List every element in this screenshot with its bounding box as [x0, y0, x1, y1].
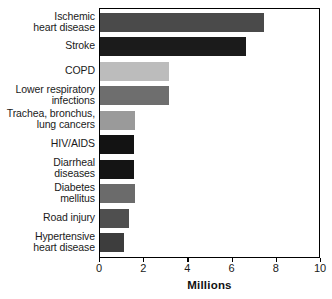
category-label-line: Diabetes [0, 182, 95, 193]
bar [100, 135, 134, 154]
category-label-line: lung cancers [0, 119, 95, 130]
category-label: Diarrhealdiseases [0, 157, 95, 179]
x-tick-label: 10 [305, 262, 332, 275]
category-label-line: diseases [0, 168, 95, 179]
x-axis-title: Millions [99, 279, 320, 291]
bar [100, 184, 135, 203]
category-label: Hypertensiveheart disease [0, 231, 95, 253]
category-label: COPD [0, 65, 95, 76]
bar [100, 160, 134, 179]
category-label-line: Hypertensive [0, 231, 95, 242]
bar [100, 233, 124, 252]
x-tick-label: 4 [172, 262, 202, 275]
plot-area [99, 8, 320, 258]
category-label-line: Stroke [0, 40, 95, 51]
bar [100, 86, 169, 105]
category-label: Road injury [0, 212, 95, 223]
category-label-line: Ischemic [0, 11, 95, 22]
bar [100, 37, 246, 56]
bar [100, 13, 264, 32]
bars-layer [100, 9, 319, 257]
category-label-line: heart disease [0, 242, 95, 253]
x-tick-label: 6 [217, 262, 247, 275]
category-axis-labels: Ischemicheart diseaseStrokeCOPDLower res… [0, 8, 95, 258]
category-label-line: mellitus [0, 193, 95, 204]
category-label-line: COPD [0, 65, 95, 76]
category-label: Lower respiratoryinfections [0, 84, 95, 106]
category-label: Diabetesmellitus [0, 182, 95, 204]
category-label: Stroke [0, 40, 95, 51]
category-label: Ischemicheart disease [0, 11, 95, 33]
x-axis: 0246810 [99, 258, 320, 278]
bar [100, 209, 129, 228]
bar [100, 62, 169, 81]
bar [100, 111, 135, 130]
x-tick-label: 0 [84, 262, 114, 275]
x-tick-label: 8 [261, 262, 291, 275]
category-label: Trachea, bronchus,lung cancers [0, 108, 95, 130]
category-label-line: infections [0, 95, 95, 106]
category-label-line: heart disease [0, 22, 95, 33]
category-label-line: HIV/AIDS [0, 138, 95, 149]
bar-chart: Ischemicheart diseaseStrokeCOPDLower res… [0, 0, 332, 299]
x-tick-label: 2 [128, 262, 158, 275]
category-label: HIV/AIDS [0, 138, 95, 149]
category-label-line: Road injury [0, 212, 95, 223]
